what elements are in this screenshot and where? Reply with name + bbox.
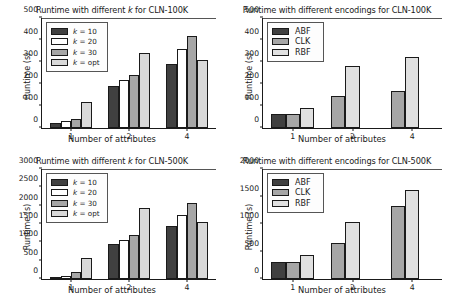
y-axis-tick-label: 400 — [245, 27, 260, 36]
y-axis-tick-label: 0 — [33, 115, 38, 124]
legend-swatch-kopt — [51, 59, 68, 66]
x-axis-tick-mark — [71, 128, 72, 131]
legend-swatch-k10 — [51, 179, 68, 186]
legend-item: ABF — [272, 177, 319, 188]
legend-item: CLK — [272, 37, 319, 48]
legend-label-k30: k = 30 — [73, 48, 97, 57]
legend-label-rbf: RBF — [295, 199, 311, 208]
legend-label-k20: k = 20 — [73, 37, 97, 46]
chart-panel-top-right: Runtime with different encodings for CLN… — [225, 0, 449, 152]
y-axis-tick-mark — [39, 83, 42, 84]
legend-swatch-rbf — [272, 49, 289, 56]
legend-swatch-k20 — [51, 38, 68, 45]
y-axis-tick-label: 1500 — [240, 183, 259, 192]
bar — [61, 276, 71, 279]
y-axis-tick-mark — [39, 241, 42, 242]
y-axis-tick-mark — [260, 168, 263, 169]
x-axis-tick-mark — [352, 128, 353, 131]
legend-swatch-clk — [272, 38, 289, 45]
bar — [139, 53, 149, 128]
y-axis-tick-mark — [39, 278, 42, 279]
bar — [129, 235, 139, 279]
y-axis-tick-mark — [260, 39, 263, 40]
bar — [345, 66, 359, 128]
legend-item: k = 30 — [51, 47, 103, 58]
legend-label-clk: CLK — [295, 188, 310, 197]
bar — [391, 206, 405, 279]
bar — [81, 258, 91, 279]
y-axis-tick-mark — [39, 105, 42, 106]
bar — [331, 96, 345, 128]
bar — [405, 190, 419, 279]
legend-label-abf: ABF — [295, 178, 311, 187]
legend-swatch-clk — [272, 189, 289, 196]
legend-swatch-k20 — [51, 189, 68, 196]
y-axis-tick-mark — [260, 105, 263, 106]
legend-swatch-abf — [272, 28, 289, 35]
bar — [50, 277, 60, 279]
y-axis-tick-label: 2000 — [19, 192, 38, 201]
y-axis-tick-label: 100 — [24, 93, 39, 102]
legend-item: CLK — [272, 188, 319, 199]
legend-item: k = opt — [51, 58, 103, 69]
y-axis-tick-label: 500 — [24, 5, 39, 14]
x-axis-tick-mark — [71, 279, 72, 282]
y-axis-tick-label: 200 — [24, 71, 39, 80]
y-axis-tick-mark — [260, 61, 263, 62]
y-axis-tick-label: 1000 — [240, 211, 259, 220]
legend-item: k = opt — [51, 209, 103, 220]
bar — [405, 57, 419, 129]
y-axis-tick-mark — [260, 278, 263, 279]
legend-item: k = 20 — [51, 188, 103, 199]
legend-swatch-k10 — [51, 28, 68, 35]
bar — [139, 208, 149, 279]
bar — [197, 222, 207, 279]
x-axis-label: Number of attributes — [0, 134, 224, 144]
bar — [271, 114, 285, 128]
legend: k = 10 k = 20 k = 30 k = opt — [46, 173, 108, 223]
bar — [300, 108, 314, 128]
legend-item: k = 10 — [51, 177, 103, 188]
y-axis-tick-mark — [39, 17, 42, 18]
bar — [61, 121, 71, 128]
y-axis-tick-label: 300 — [245, 49, 260, 58]
y-axis-tick-mark — [39, 259, 42, 260]
y-axis-tick-label: 1500 — [19, 211, 38, 220]
legend-item: k = 30 — [51, 198, 103, 209]
bar — [331, 243, 345, 279]
y-axis-tick-label: 500 — [24, 247, 39, 256]
bar — [108, 244, 118, 279]
y-axis-tick-mark — [39, 127, 42, 128]
bar — [187, 203, 197, 279]
x-axis-tick-mark — [129, 128, 130, 131]
y-axis-tick-label: 500 — [245, 238, 260, 247]
legend-label-rbf: RBF — [295, 48, 311, 57]
bar — [177, 215, 187, 279]
bar — [187, 36, 197, 128]
chart-panel-bottom-right: Runtime with different encodings for CLN… — [225, 151, 449, 303]
y-axis-tick-label: 0 — [33, 266, 38, 275]
legend-label-abf: ABF — [295, 27, 311, 36]
x-axis-tick-mark — [292, 128, 293, 131]
bar — [71, 272, 81, 279]
x-axis-tick-mark — [292, 279, 293, 282]
legend-item: k = 10 — [51, 26, 103, 37]
bar — [119, 240, 129, 279]
y-axis-tick-label: 500 — [245, 5, 260, 14]
y-axis-tick-mark — [260, 17, 263, 18]
y-axis-tick-label: 2000 — [240, 156, 259, 165]
legend-label-k30: k = 30 — [73, 199, 97, 208]
x-axis-label: Number of attributes — [235, 285, 449, 295]
y-axis-tick-label: 200 — [245, 71, 260, 80]
legend-label-kopt: k = opt — [73, 58, 100, 67]
bar — [81, 102, 91, 128]
bar — [177, 49, 187, 128]
y-axis-tick-label: 3000 — [19, 156, 38, 165]
y-axis-tick-label: 1000 — [19, 229, 38, 238]
bar — [286, 262, 300, 279]
x-axis-tick-mark — [412, 128, 413, 131]
legend: ABF CLK RBF — [267, 173, 324, 213]
x-axis-label: Number of attributes — [0, 285, 224, 295]
y-axis-tick-label: 2500 — [19, 174, 38, 183]
legend-label-k10: k = 10 — [73, 178, 97, 187]
